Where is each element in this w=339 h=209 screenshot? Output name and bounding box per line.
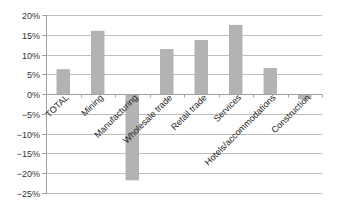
- bar-services: [229, 25, 242, 94]
- y-tick-label: −10%: [17, 130, 40, 140]
- y-tick-label: −15%: [17, 149, 40, 159]
- y-tick-label: 5%: [27, 70, 40, 80]
- y-tick-label: 20%: [22, 11, 40, 21]
- bar-wholesale-trade: [160, 49, 173, 94]
- y-tick-label: 15%: [22, 31, 40, 41]
- y-tick-label: −20%: [17, 169, 40, 179]
- x-axis-labels: TOTALMiningManufacturingWholesale tradeR…: [44, 92, 313, 167]
- x-tick-label: TOTAL: [44, 92, 71, 119]
- bar-hotels-accommodations: [264, 68, 277, 94]
- y-tick-label: −25%: [17, 189, 40, 199]
- x-tick-label: Services: [212, 92, 244, 124]
- bar-chart: 20%15%10%5%0%−5%−10%−15%−20%−25% TOTALMi…: [0, 0, 339, 209]
- bar-total: [57, 69, 70, 94]
- y-tick-label: 10%: [22, 51, 40, 61]
- y-axis-ticks: 20%15%10%5%0%−5%−10%−15%−20%−25%: [17, 11, 46, 199]
- y-tick-label: −5%: [22, 110, 40, 120]
- x-tick-label: Retail trade: [169, 92, 209, 132]
- x-tick-label: Hotels/accommodations: [203, 92, 278, 167]
- bar-retail-trade: [195, 40, 208, 94]
- bar-mining: [91, 31, 104, 94]
- y-tick-label: 0%: [27, 90, 40, 100]
